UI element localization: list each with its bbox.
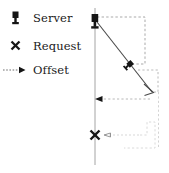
offset-arrow-middle [95,96,150,102]
legend: Server Request Offset [3,11,82,77]
diagonal-path [97,22,152,92]
server-marker-top [91,14,98,29]
sequence-timeline-figure: Server Request Offset [0,0,169,173]
offset-arrow-bottom [104,133,139,137]
legend-item-server: Server [12,11,73,25]
legend-item-label: Server [33,11,73,25]
legend-item-label: Offset [33,63,69,77]
x-mark-icon [12,42,20,50]
dashed-arrow-icon [3,67,26,73]
diagram [91,8,159,165]
legend-item-offset: Offset [3,63,69,77]
guide-mid-step [138,70,158,92]
legend-item-label: Request [33,39,82,53]
arrowhead-diagonal-end [144,84,154,96]
legend-item-request: Request [12,39,82,53]
guide-bottom-step [124,122,155,148]
server-icon [12,12,19,25]
guide-top-box [97,17,145,64]
